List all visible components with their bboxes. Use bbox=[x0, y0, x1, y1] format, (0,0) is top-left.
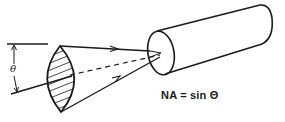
na-formula: NA = sin Θ bbox=[161, 89, 219, 101]
ray-convergence bbox=[150, 51, 161, 57]
fiber-back-end bbox=[260, 5, 272, 44]
fiber-cylinder bbox=[144, 5, 272, 77]
angle-theta-label: θ bbox=[10, 63, 16, 74]
lower-ray bbox=[61, 57, 160, 112]
diagram-canvas bbox=[0, 0, 285, 122]
upper-ray bbox=[60, 46, 150, 51]
lower-ray-arrow-icon bbox=[112, 76, 120, 82]
